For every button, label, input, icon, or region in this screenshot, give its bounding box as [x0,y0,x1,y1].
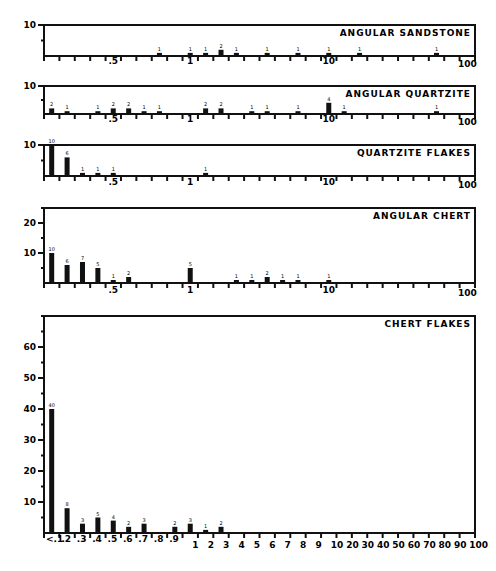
bar-value-label: 1 [266,104,269,110]
panel-title: QUARTZITE FLAKES [357,148,471,158]
bar-value-label: 4 [327,96,330,102]
y-tick-label: 40 [23,404,36,414]
panel-angular-chert: ANGULAR CHERT1020.511010010675125112111 [23,208,476,298]
bar-value-label: 6 [65,258,68,264]
bar [295,53,300,56]
bar-value-label: 5 [96,261,99,267]
bar-value-label: 1 [435,104,438,110]
bar-value-label: 1 [327,46,330,52]
bar [65,265,70,283]
x-tick-label: 10 [323,56,336,66]
bar-value-label: 1 [296,46,299,52]
x-tick-label: 4 [238,540,244,550]
panel-title: ANGULAR QUARTZITE [346,89,471,99]
bar [49,409,54,533]
bar-value-label: 2 [219,43,222,49]
bar-value-label: 2 [127,101,130,107]
bar [326,280,331,283]
bar [265,53,270,56]
x-tick-label: 30 [362,540,375,550]
bar-value-label: 40 [49,402,55,408]
bar [203,173,208,176]
bar [111,521,116,533]
x-tick-label: 70 [423,540,436,550]
y-tick-label: 30 [23,435,36,445]
bar [65,111,70,114]
bar-value-label: 1 [204,166,207,172]
bar-value-label: 1 [81,166,84,172]
x-tick-label: 100 [458,59,477,69]
panel-quartzite-flakes: QUARTZITE FLAKES10.51101001061111 [23,138,476,190]
bar [126,108,131,114]
bar [265,111,270,114]
bar-value-label: 1 [235,46,238,52]
bar-value-label: 2 [204,101,207,107]
histogram-panels: ANGULAR SANDSTONE10.51101001112111111ANG… [0,0,496,571]
bar-value-label: 1 [112,166,115,172]
bar-value-label: 1 [65,104,68,110]
bar [65,157,70,176]
bar [295,111,300,114]
x-tick-label: 1 [187,285,193,295]
x-tick-label: 3 [223,540,229,550]
x-tick-label: 7 [285,540,291,550]
x-tick-label: .8 [154,534,164,544]
panel-angular-sandstone: ANGULAR SANDSTONE10.51101001112111111 [23,20,476,69]
x-tick-label: .3 [77,534,87,544]
bar [157,111,162,114]
bar-value-label: 1 [250,104,253,110]
y-tick-label: 50 [23,373,36,383]
x-tick-label: .7 [138,534,148,544]
bar [80,262,85,283]
x-tick-label: .5 [108,56,118,66]
x-tick-label: 90 [454,540,467,550]
bar [280,280,285,283]
x-tick-label: 1 [187,114,193,124]
y-tick-label: 10 [23,140,36,150]
bar [142,111,147,114]
bar-value-label: 6 [65,150,68,156]
panel-title: CHERT FLAKES [384,319,471,329]
bar [95,111,100,114]
bar-value-label: 3 [142,517,145,523]
x-tick-label: 100 [458,117,477,127]
bar-value-label: 1 [158,46,161,52]
bar-value-label: 1 [235,273,238,279]
bar [326,103,331,114]
x-tick-label: .9 [169,534,179,544]
bar-value-label: 5 [189,261,192,267]
x-tick-label: 1 [187,177,193,187]
bar-value-label: 1 [296,273,299,279]
bar [111,108,116,114]
x-tick-label: .2 [61,534,71,544]
bar-value-label: 1 [204,46,207,52]
x-tick-label: .5 [108,114,118,124]
x-tick-label: 8 [300,540,306,550]
x-tick-label: 20 [346,540,359,550]
bar-value-label: 1 [281,273,284,279]
bar-value-label: 1 [204,523,207,529]
bar-value-label: 2 [127,520,130,526]
x-tick-label: 2 [208,540,214,550]
bar-value-label: 2 [173,520,176,526]
panel-title: ANGULAR SANDSTONE [340,28,471,38]
bar [111,173,116,176]
bar [49,253,54,283]
y-tick-label: 20 [23,466,36,476]
panel-chert-flakes: CHERT FLAKES102030405060<.1.2.3.4.5.6.7.… [23,316,488,550]
x-tick-label: 60 [408,540,421,550]
panel-angular-quartzite: ANGULAR QUARTZITE10.51101002112211221114… [23,81,476,127]
bar-value-label: 3 [189,517,192,523]
panel-title: ANGULAR CHERT [373,211,471,221]
bar [188,53,193,56]
x-tick-label: 1 [192,540,198,550]
bar-value-label: 2 [50,101,53,107]
x-tick-label: 40 [377,540,390,550]
bar [203,108,208,114]
bar [434,111,439,114]
y-tick-label: 10 [23,20,36,30]
x-tick-label: 10 [323,114,336,124]
bar-value-label: 4 [112,514,115,520]
bar [188,268,193,283]
bar-value-label: 2 [112,101,115,107]
